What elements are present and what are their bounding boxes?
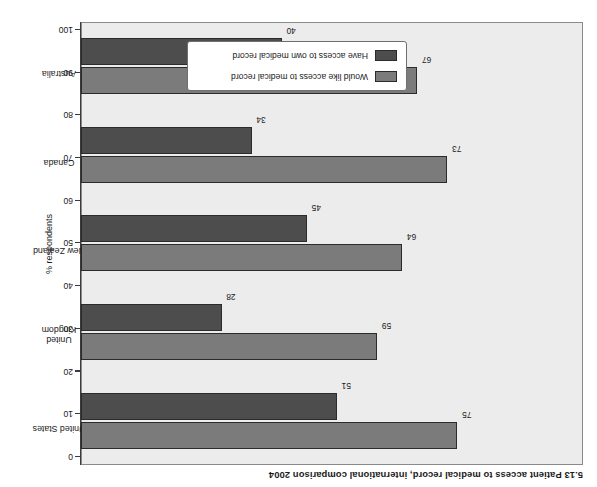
category-label: Canada <box>44 157 75 168</box>
bar-value-label: 75 <box>462 410 471 420</box>
value-axis-title: % respondents <box>44 214 54 274</box>
bar-value-label: 64 <box>407 233 416 243</box>
bar <box>81 156 447 183</box>
bar-value-label: 51 <box>342 381 351 391</box>
chart-figure: 5.13 Patient access to medical record, i… <box>0 0 597 487</box>
bar <box>81 393 337 420</box>
legend-item-have-access: Have access to own medical record <box>232 49 397 63</box>
legend-swatch-have-access <box>375 51 397 62</box>
bar-value-label: 67 <box>422 55 431 65</box>
chart-title: 5.13 Patient access to medical record, i… <box>80 470 583 481</box>
axis-tick <box>75 370 81 371</box>
legend-swatch-would-like <box>375 72 397 83</box>
category-label: United Kingdom <box>42 324 77 345</box>
bar-value-label: 34 <box>256 115 265 125</box>
category-label: United States <box>33 423 86 434</box>
axis-tick-label: 20 <box>63 367 73 377</box>
bar <box>81 333 377 360</box>
axis-tick-label: 40 <box>63 281 73 291</box>
axis-tick <box>75 285 81 286</box>
bar <box>81 422 458 449</box>
bar <box>81 127 252 154</box>
bar-value-label: 59 <box>382 321 391 331</box>
bar <box>81 245 402 272</box>
legend-item-would-like: Would like access to medical record <box>231 70 397 84</box>
axis-tick-label: 60 <box>63 196 73 206</box>
axis-tick-label: 80 <box>63 110 73 120</box>
bar <box>81 304 222 331</box>
category-label: Australia <box>42 69 76 80</box>
bar-value-label: 28 <box>226 292 235 302</box>
axis-tick <box>75 29 81 30</box>
bar <box>81 216 307 243</box>
axis-tick-label: 0 <box>68 452 73 462</box>
bar-value-label: 73 <box>452 144 461 154</box>
legend: Would like access to medical record Have… <box>187 41 407 91</box>
legend-label-have-access: Have access to own medical record <box>232 51 368 61</box>
legend-label-would-like: Would like access to medical record <box>231 72 368 82</box>
category-label: New Zealand <box>33 246 85 257</box>
axis-tick-label: 100 <box>59 25 73 35</box>
bar-value-label: 40 <box>286 26 295 36</box>
axis-tick <box>75 456 81 457</box>
axis-tick-label: 10 <box>63 409 73 419</box>
axis-tick <box>75 114 81 115</box>
axis-tick <box>75 200 81 201</box>
bar-value-label: 45 <box>312 204 321 214</box>
